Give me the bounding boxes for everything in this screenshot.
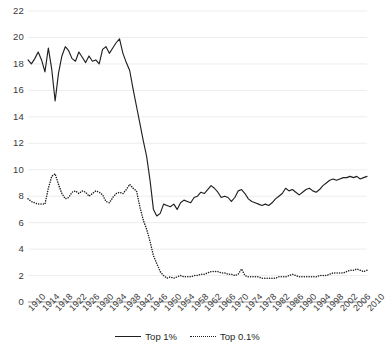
y-tick-2: 2 [0,271,24,281]
dotted-line-icon [190,336,216,337]
y-tick-22: 22 [0,6,24,16]
y-tick-16: 16 [0,85,24,95]
y-tick-6: 6 [0,218,24,228]
legend-label-top-1-percent: Top 1% [145,331,177,342]
y-tick-10: 10 [0,165,24,175]
solid-line-icon [115,336,141,337]
legend-item-top-1-percent: Top 1% [115,331,177,342]
y-tick-20: 20 [0,32,24,42]
y-tick-12: 12 [0,138,24,148]
series-line-1 [28,39,367,216]
series-line-2 [28,174,367,278]
gridlines [28,11,367,276]
data-series-group [28,39,367,278]
legend-label-top-0-1-percent: Top 0.1% [220,331,260,342]
y-tick-18: 18 [0,59,24,69]
y-tick-14: 14 [0,112,24,122]
y-tick-0: 0 [0,297,24,307]
y-tick-4: 4 [0,244,24,254]
chart-legend: Top 1% Top 0.1% [0,331,375,342]
legend-item-top-0-1-percent: Top 0.1% [190,331,260,342]
y-tick-8: 8 [0,191,24,201]
